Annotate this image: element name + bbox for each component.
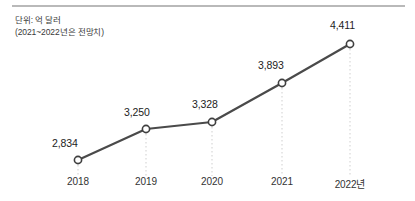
data-point-2018[interactable] [74,156,81,163]
value-label-2022년: 4,411 [330,19,355,31]
x-axis-label-2021: 2021 [252,176,312,187]
x-axis-label-2022년: 2022년 [320,176,380,191]
x-axis-label-2019: 2019 [116,176,176,187]
data-point-2022년[interactable] [346,40,353,47]
data-point-2019[interactable] [142,125,149,132]
chart-container: 단위: 억 달러 (2021~2022년은 전망치) 2,8343,2503,3… [0,0,415,201]
data-point-2020[interactable] [208,118,215,125]
value-label-2019: 3,250 [124,106,150,118]
x-axis-label-2020: 2020 [182,176,242,187]
value-label-2020: 3,328 [192,98,218,110]
x-axis-label-2018: 2018 [48,176,108,187]
value-label-2021: 3,893 [258,59,284,71]
data-point-2021[interactable] [278,79,285,86]
value-label-2018: 2,834 [52,137,78,149]
